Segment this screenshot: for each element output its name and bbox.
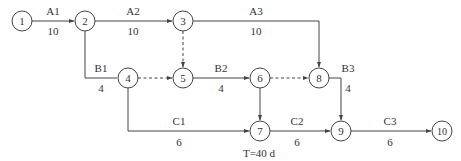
- node-label: 4: [125, 72, 131, 84]
- activity-name-A3: A3: [249, 5, 263, 17]
- node-2: 2: [75, 11, 95, 31]
- activity-duration-A2: 10: [128, 25, 140, 37]
- activity-duration-A1: 10: [48, 25, 60, 37]
- activity-name-C3: C3: [384, 115, 397, 127]
- node-label: 1: [19, 15, 25, 27]
- node-label: 3: [180, 15, 186, 27]
- activity-duration-C1: 6: [176, 136, 182, 148]
- activity-duration-C3: 6: [387, 136, 393, 148]
- node-1: 1: [12, 11, 32, 31]
- node-label: 5: [180, 72, 186, 84]
- node-9: 9: [331, 121, 351, 141]
- node-label: 6: [257, 72, 263, 84]
- activity-duration-C2: 6: [294, 136, 300, 148]
- node-8: 8: [309, 68, 329, 88]
- node-6: 6: [250, 68, 270, 88]
- activity-duration-B3: 4: [345, 82, 351, 94]
- arrow-B3: [329, 78, 341, 120]
- node-10: 10: [432, 121, 452, 141]
- activity-name-C2: C2: [291, 115, 304, 127]
- node-label: 9: [338, 125, 344, 137]
- activity-duration-B2: 4: [218, 82, 224, 94]
- activity-name-C1: C1: [173, 115, 186, 127]
- activity-name-B1: B1: [95, 62, 108, 74]
- node-5: 5: [173, 68, 193, 88]
- network-diagram: 1 2 3 4 5 6 7 8 9 10 A1 10 A2 10 A3 10 B…: [0, 0, 461, 161]
- node-label: 2: [82, 15, 88, 27]
- arrow-C1: [128, 88, 249, 131]
- node-3: 3: [173, 11, 193, 31]
- node-label: 8: [316, 72, 322, 84]
- node-label: 7: [257, 125, 263, 137]
- activity-name-A1: A1: [46, 5, 59, 17]
- activity-name-A2: A2: [126, 5, 139, 17]
- activity-duration-B1: 4: [98, 82, 104, 94]
- node-7: 7: [250, 121, 270, 141]
- activity-duration-A3: 10: [251, 25, 263, 37]
- total-duration-annotation: T=40 d: [243, 147, 276, 159]
- node-4: 4: [118, 68, 138, 88]
- activity-name-B2: B2: [215, 62, 228, 74]
- activity-name-B3: B3: [342, 62, 355, 74]
- node-label: 10: [437, 126, 447, 137]
